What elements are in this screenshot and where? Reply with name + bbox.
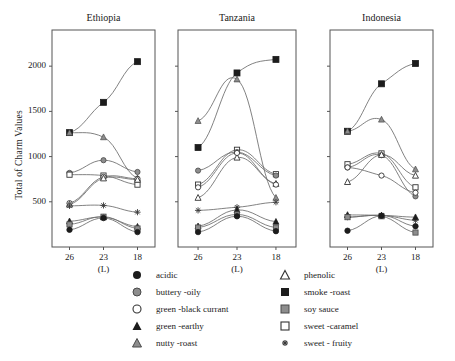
legend-item-label: sweet - fruity xyxy=(304,338,352,348)
legend-item: nutty -roast xyxy=(128,334,278,351)
marker-green-black-currant xyxy=(345,165,350,170)
legend-item: sweet - fruity xyxy=(276,334,426,351)
legend-marker-icon xyxy=(278,285,292,299)
x-tick-label: 23 xyxy=(90,252,118,262)
filled-square-icon xyxy=(276,283,294,300)
x-tick-label: 26 xyxy=(334,252,362,262)
marker-acidic xyxy=(135,229,140,234)
marker-nutty-roast xyxy=(195,118,201,124)
panel-series-indonesia xyxy=(344,60,418,235)
marker-smoke-roast xyxy=(134,59,140,65)
marker-buttery-oily xyxy=(101,158,106,163)
marker-phenolic xyxy=(195,195,201,201)
legend-item-label: green -earthy xyxy=(156,321,204,331)
marker-acidic xyxy=(234,214,239,219)
marker-soy-sauce xyxy=(67,222,72,227)
y-tick-label: 2000 xyxy=(8,60,46,70)
marker-smoke-roast xyxy=(412,60,418,66)
y-tick-label: 500 xyxy=(8,196,46,206)
x-tick-label: 26 xyxy=(184,252,212,262)
legend-item: sweet -caramel xyxy=(276,317,426,334)
x-tick-label: 18 xyxy=(123,252,151,262)
chart-legend: acidicbuttery -oilygreen -black currantg… xyxy=(128,266,428,358)
open-square-icon xyxy=(276,317,294,334)
marker-green-black-currant xyxy=(379,173,384,178)
legend-marker-icon xyxy=(278,302,292,316)
legend-column-left: acidicbuttery -oilygreen -black currantg… xyxy=(128,266,278,351)
marker-sweet-fruity xyxy=(100,202,106,208)
legend-item: phenolic xyxy=(276,266,426,283)
x-tick-label: 18 xyxy=(262,252,290,262)
legend-marker-icon xyxy=(278,268,292,282)
gray-circle-icon xyxy=(128,283,146,300)
marker-sweet-fruity xyxy=(66,203,72,209)
marker-nutty-roast xyxy=(412,166,418,172)
series-line xyxy=(70,62,138,133)
panel-title-tanzania: Tanzania xyxy=(178,12,296,23)
legend-item-label: nutty -roast xyxy=(156,338,197,348)
marker-sweet-fruity xyxy=(195,207,201,213)
panel-series-tanzania xyxy=(195,56,279,234)
x-tick-label: 26 xyxy=(56,252,84,262)
legend-column-right: phenolicsmoke -roastsoy saucesweet -cara… xyxy=(276,266,426,351)
marker-sweet-caramel xyxy=(135,182,140,187)
panel-series-ethiopia xyxy=(66,59,140,235)
marker-acidic xyxy=(273,228,278,233)
legend-item: soy sauce xyxy=(276,300,426,317)
legend-marker-icon xyxy=(278,336,292,350)
series-line xyxy=(198,78,276,198)
marker-smoke-roast xyxy=(273,56,279,62)
marker-acidic xyxy=(101,215,106,220)
panel-title-ethiopia: Ethiopia xyxy=(52,12,155,23)
y-tick-label: 1500 xyxy=(8,105,46,115)
legend-item-label: phenolic xyxy=(304,270,335,280)
x-tick-label: 23 xyxy=(223,252,251,262)
asterisk-icon xyxy=(276,334,294,351)
marker-buttery-oily xyxy=(135,169,140,174)
legend-marker-icon xyxy=(130,336,144,350)
legend-item-label: acidic xyxy=(156,270,178,280)
legend-item-label: smoke -roast xyxy=(304,287,350,297)
marker-green-black-currant xyxy=(195,185,200,190)
gray-square-icon xyxy=(276,300,294,317)
series-line xyxy=(198,157,276,197)
legend-item-label: sweet -caramel xyxy=(304,321,358,331)
filled-circle-icon xyxy=(128,266,146,283)
x-tick-label: 18 xyxy=(401,252,429,262)
marker-buttery-oily xyxy=(273,173,278,178)
marker-green-black-currant xyxy=(273,182,278,187)
legend-marker-icon xyxy=(278,319,292,333)
legend-item-label: green -black currant xyxy=(156,304,228,314)
legend-marker-icon xyxy=(130,319,144,333)
marker-buttery-oily xyxy=(195,168,200,173)
legend-item: acidic xyxy=(128,266,278,283)
legend-marker-icon xyxy=(130,285,144,299)
marker-soy-sauce xyxy=(345,215,350,220)
y-tick-label: 1000 xyxy=(8,151,46,161)
marker-sweet-fruity xyxy=(134,209,140,215)
gray-triangle-icon xyxy=(128,334,146,351)
marker-smoke-roast xyxy=(234,70,240,76)
filled-triangle-icon xyxy=(128,317,146,334)
legend-item-label: buttery -oily xyxy=(156,287,201,297)
legend-marker-icon xyxy=(130,302,144,316)
marker-acidic xyxy=(413,224,418,229)
legend-marker-icon xyxy=(130,268,144,282)
chart-figure: Total of Charm Values EthiopiaTanzaniaIn… xyxy=(0,0,455,361)
marker-acidic xyxy=(379,213,384,218)
marker-green-black-currant xyxy=(413,190,418,195)
x-tick-label: 23 xyxy=(368,252,396,262)
legend-item: smoke -roast xyxy=(276,283,426,300)
marker-smoke-roast xyxy=(101,99,107,105)
marker-smoke-roast xyxy=(195,145,201,151)
marker-sweet-caramel xyxy=(67,172,72,177)
open-circle-icon xyxy=(128,300,146,317)
marker-sweet-fruity xyxy=(273,199,279,205)
panel-title-indonesia: Indonesia xyxy=(330,12,433,23)
legend-item: green -earthy xyxy=(128,317,278,334)
legend-item: buttery -oily xyxy=(128,283,278,300)
marker-acidic xyxy=(345,228,350,233)
legend-item: green -black currant xyxy=(128,300,278,317)
marker-nutty-roast xyxy=(234,76,240,82)
marker-sweet-caramel xyxy=(413,185,418,190)
